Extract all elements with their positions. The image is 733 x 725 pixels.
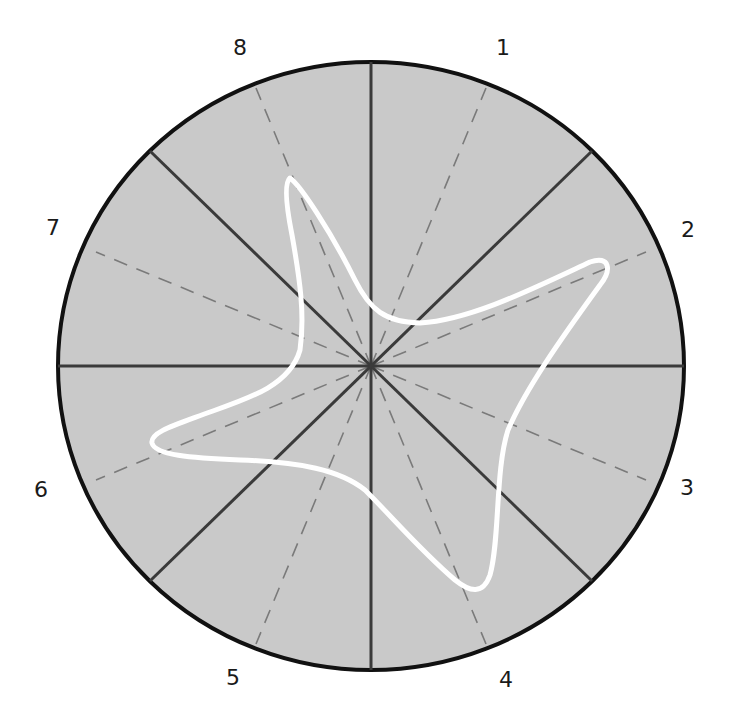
sector-label-8: 8: [233, 37, 247, 59]
sector-label-5: 5: [226, 667, 240, 689]
sector-label-7: 7: [46, 217, 60, 239]
sector-label-1: 1: [496, 37, 510, 59]
sector-label-6: 6: [34, 479, 48, 501]
sector-label-3: 3: [680, 477, 694, 499]
polar-diagram: [0, 0, 733, 725]
sector-label-2: 2: [681, 219, 695, 241]
sector-label-4: 4: [499, 669, 513, 691]
sector-dividers: [58, 62, 684, 670]
